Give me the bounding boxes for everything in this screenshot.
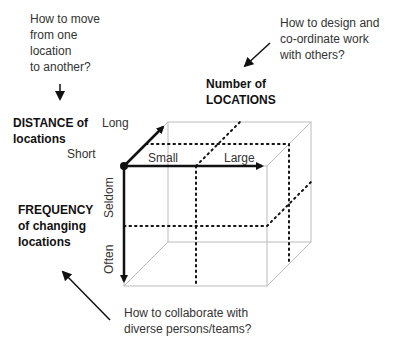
number-title-line: LOCATIONS — [206, 92, 276, 108]
move-question-line: from one — [30, 27, 100, 43]
frequency-high-label: Often — [102, 245, 116, 274]
collaborate-question-line: diverse persons/teams? — [124, 321, 251, 337]
distance-title: DISTANCE of locations — [13, 115, 88, 147]
design-question-line: How to design and — [280, 15, 379, 31]
frequency-title-line: locations — [18, 234, 93, 250]
distance-title-line: locations — [13, 131, 88, 147]
origin-dot — [120, 162, 128, 170]
collaborate-question-line: How to collaborate with — [124, 305, 251, 321]
move-question: How to move from one location to another… — [30, 11, 100, 75]
division-lines — [124, 122, 311, 286]
design-question: How to design and co-ordinate work with … — [280, 15, 379, 63]
distance-title-line: DISTANCE of — [13, 115, 88, 131]
frequency-title: FREQUENCY of changing locations — [18, 202, 93, 250]
distance-high-label: Long — [102, 115, 129, 131]
number-high-label: Large — [224, 150, 255, 166]
distance-low-label: Short — [67, 146, 96, 162]
collaborate-question: How to collaborate with diverse persons/… — [124, 305, 251, 337]
number-low-label: Small — [148, 150, 178, 166]
cube-edge-bl — [124, 242, 168, 286]
move-question-line: location — [30, 43, 100, 59]
design-question-arrow — [245, 43, 270, 66]
number-title-line: Number of — [206, 76, 276, 92]
frequency-title-line: FREQUENCY — [18, 202, 93, 218]
frequency-low-label: Seldom — [102, 177, 116, 218]
move-question-line: How to move — [30, 11, 100, 27]
number-of-locations-title: Number of LOCATIONS — [206, 76, 276, 108]
cube-outline — [124, 122, 311, 286]
design-question-line: co-ordinate work — [280, 31, 379, 47]
frequency-title-line: of changing — [18, 218, 93, 234]
move-question-line: to another? — [30, 59, 100, 75]
collaborate-question-arrow — [63, 272, 110, 320]
design-question-line: with others? — [280, 47, 379, 63]
